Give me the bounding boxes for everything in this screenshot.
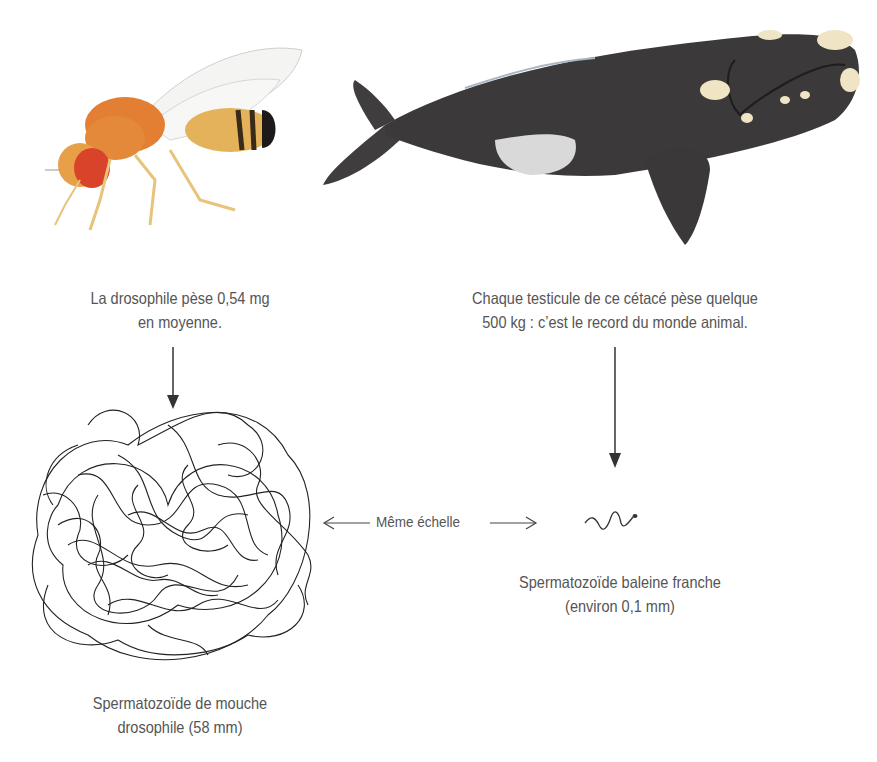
whale-sperm-caption: Spermatozoïde baleine franche (environ 0… bbox=[488, 570, 752, 618]
arrow-left-icon bbox=[322, 516, 372, 530]
fly-caption-line2: en moyenne. bbox=[57, 310, 303, 334]
fly-caption-line1: La drosophile pèse 0,54 mg bbox=[57, 286, 303, 310]
fly-caption: La drosophile pèse 0,54 mg en moyenne. bbox=[57, 286, 303, 334]
drosophila-illustration bbox=[40, 30, 310, 250]
whale-down-arrow-icon bbox=[605, 347, 625, 472]
whale-caption-line1: Chaque testicule de ce cétacé pèse quelq… bbox=[430, 286, 800, 310]
same-scale-label: Même échelle bbox=[376, 513, 460, 530]
arrow-right-icon bbox=[488, 516, 538, 530]
fly-sperm-caption: Spermatozoïde de mouche drosophile (58 m… bbox=[57, 691, 303, 739]
right-whale-illustration bbox=[315, 20, 865, 250]
whale-caption-line2: 500 kg : c’est le record du monde animal… bbox=[430, 310, 800, 334]
fly-sperm-caption-line1: Spermatozoïde de mouche bbox=[57, 691, 303, 715]
whale-sperm-caption-line1: Spermatozoïde baleine franche bbox=[488, 570, 752, 594]
whale-sperm-squiggle-icon bbox=[583, 505, 643, 535]
whale-sperm-caption-line2: (environ 0,1 mm) bbox=[488, 594, 752, 618]
tangled-fly-sperm-illustration bbox=[18, 385, 328, 675]
fly-sperm-caption-line2: drosophile (58 mm) bbox=[57, 715, 303, 739]
whale-caption: Chaque testicule de ce cétacé pèse quelq… bbox=[430, 286, 800, 334]
